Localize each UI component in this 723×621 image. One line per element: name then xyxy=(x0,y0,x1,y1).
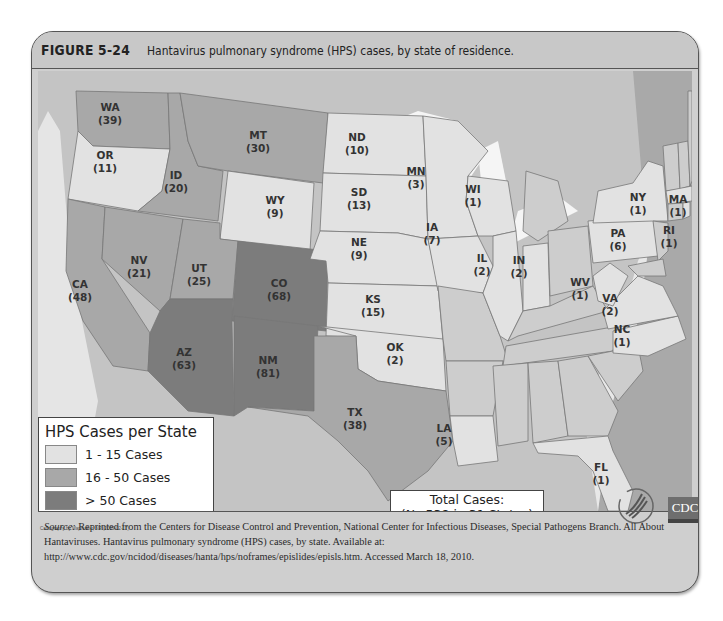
state-wa xyxy=(76,91,170,149)
state-label-sd: SD(13) xyxy=(347,186,371,212)
figure-source-note: Source: Reprinted from the Centers for D… xyxy=(44,519,689,564)
map-legend: HPS Cases per State 1 - 15 Cases 16 - 50… xyxy=(38,417,214,512)
source-label: Source: xyxy=(44,521,76,532)
state-label-nv: NV(21) xyxy=(127,254,151,280)
legend-label: 16 - 50 Cases xyxy=(85,470,170,485)
state-la xyxy=(450,416,498,466)
total-title: Total Cases: xyxy=(391,493,543,507)
legend-swatch xyxy=(45,491,77,510)
state-label-ny: NY(1) xyxy=(630,191,647,217)
legend-item-1-15: 1 - 15 Cases xyxy=(45,443,207,465)
figure-panel: FIGURE 5-24 Hantavirus pulmonary syndrom… xyxy=(31,31,699,593)
state-label-wv: WV(1) xyxy=(570,276,590,302)
legend-swatch xyxy=(45,468,77,487)
state-label-nd: ND(10) xyxy=(345,131,369,157)
state-label-ut: UT(25) xyxy=(187,262,211,288)
legend-label: > 50 Cases xyxy=(85,493,156,508)
state-label-mn: MN(3) xyxy=(406,165,425,191)
state-label-wa: WA(39) xyxy=(98,101,122,127)
state-label-ri: RI(1) xyxy=(661,224,678,250)
legend-label: 1 - 15 Cases xyxy=(85,447,162,462)
total-count: (N=538 in 31 States) xyxy=(391,507,543,512)
figure-title: Hantavirus pulmonary syndrome (HPS) case… xyxy=(147,43,514,58)
state-vt xyxy=(663,143,680,191)
state-label-il: IL(2) xyxy=(474,252,491,278)
state-ne xyxy=(310,231,438,286)
state-label-mt: MT(30) xyxy=(246,129,270,155)
state-label-fl: FL(1) xyxy=(593,461,610,487)
state-label-in: IN(2) xyxy=(511,254,528,280)
state-label-ks: KS(15) xyxy=(361,293,385,319)
state-label-nm: NM(81) xyxy=(256,354,280,380)
state-label-wi: WI(1) xyxy=(465,183,482,209)
legend-item-over-50: > 50 Cases xyxy=(45,489,207,511)
state-label-or: OR(11) xyxy=(93,149,117,175)
state-label-co: CO(68) xyxy=(267,277,291,303)
state-label-ca: CA(48) xyxy=(68,278,92,304)
state-label-tx: TX(38) xyxy=(343,406,367,432)
state-label-ma: MA(1) xyxy=(669,193,688,219)
state-label-pa: PA(6) xyxy=(610,227,627,253)
figure-header: FIGURE 5-24 Hantavirus pulmonary syndrom… xyxy=(32,32,698,69)
state-label-nc: NC(1) xyxy=(614,323,631,349)
state-label-wy: WY(9) xyxy=(265,194,284,220)
us-map: WA(39) OR(11) CA(48) ID(20) NV(21) MT(30… xyxy=(38,71,692,512)
legend-item-16-50: 16 - 50 Cases xyxy=(45,466,207,488)
source-text: Reprinted from the Centers for Disease C… xyxy=(44,521,664,562)
state-ms xyxy=(493,363,528,446)
figure-number: FIGURE 5-24 xyxy=(41,42,124,58)
state-label-ok: OK(2) xyxy=(386,341,403,367)
total-cases-box: Total Cases: (N=538 in 31 States) Cumula… xyxy=(390,490,544,512)
state-label-va: VA(2) xyxy=(602,292,619,318)
state-label-ia: IA(7) xyxy=(424,221,441,247)
state-label-ne: NE(9) xyxy=(351,236,368,262)
legend-swatch xyxy=(45,445,77,464)
state-label-az: AZ(63) xyxy=(172,346,196,372)
state-label-la: LA(5) xyxy=(436,422,453,448)
legend-title: HPS Cases per State xyxy=(45,422,191,441)
state-label-id: ID(20) xyxy=(164,169,188,195)
